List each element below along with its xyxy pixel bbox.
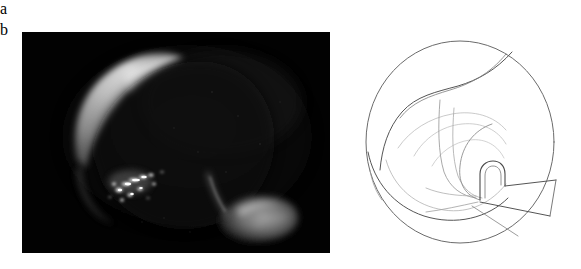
radiating-line-upper xyxy=(505,180,556,186)
radiating-line-lower xyxy=(480,202,550,216)
hook-loop-inner xyxy=(485,166,501,198)
upper-fold-contour xyxy=(380,52,512,170)
inner-fold-line-3 xyxy=(432,140,504,166)
inner-fold-line-1 xyxy=(398,113,506,148)
radiating-line-shadow xyxy=(472,206,518,236)
inner-fold-line-2 xyxy=(414,124,506,156)
panel-label-b: b xyxy=(0,21,24,42)
radiating-line-edge xyxy=(550,180,556,216)
figure-root: a xyxy=(0,0,581,269)
panel-b-diagram xyxy=(340,30,581,256)
panel-b-line-drawing xyxy=(340,30,581,256)
panel-label-a: a xyxy=(0,0,24,21)
lower-left-fold-inner xyxy=(426,188,476,196)
upper-fold-contour-inner xyxy=(400,54,506,118)
vertical-fold-contour-inner xyxy=(453,108,482,198)
panel-a-photograph xyxy=(22,32,330,253)
panel-a-image xyxy=(22,32,330,253)
vertical-fold-contour xyxy=(439,100,476,198)
